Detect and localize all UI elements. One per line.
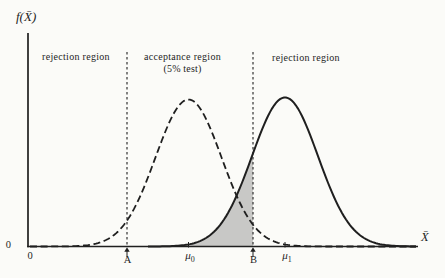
- left-rejection-region-label: rejection region: [26, 51, 126, 62]
- mu0-subscript: 0: [191, 255, 195, 264]
- y-axis-label: f(X̄): [16, 9, 36, 25]
- figure-hypothesis-test: f(X̄) 0 0 rejection region acceptance re…: [0, 0, 445, 278]
- mu1-subscript: 1: [288, 255, 292, 264]
- mu0-label: μ0: [178, 249, 202, 261]
- a-marker-head: [124, 247, 129, 252]
- x-axis-label: X̄: [421, 230, 429, 245]
- point-a-label: A: [119, 254, 136, 265]
- right-rejection-region-label: rejection region: [256, 52, 356, 63]
- y-origin-label: 0: [0, 239, 11, 250]
- plot-svg: [0, 0, 445, 278]
- mu1-label: μ1: [275, 249, 299, 261]
- point-b-label: B: [245, 254, 262, 265]
- x-origin-label: 0: [24, 250, 36, 261]
- h1-curve-solid: [148, 98, 416, 247]
- type-ii-error-area: [148, 153, 253, 246]
- b-marker-head: [250, 247, 255, 252]
- test-size-label: (5% test): [132, 63, 233, 74]
- acceptance-region-label: acceptance region: [132, 51, 233, 62]
